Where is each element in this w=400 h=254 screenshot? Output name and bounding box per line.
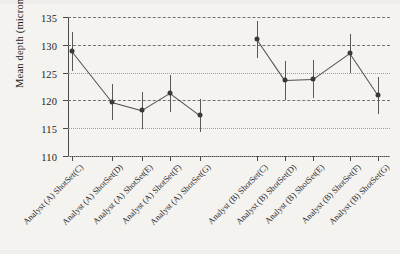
y-tick-label: 135 (41, 13, 57, 24)
line-segment (349, 53, 378, 95)
x-tick-1 (112, 156, 113, 161)
y-tick: 130 (63, 45, 68, 46)
x-tick-0 (72, 156, 73, 161)
data-point (283, 78, 288, 83)
gridline (68, 100, 390, 101)
line-segment (71, 51, 112, 102)
y-tick: 120 (63, 100, 68, 101)
y-tick-label: 110 (41, 152, 57, 163)
y-tick-label: 120 (41, 96, 57, 107)
line-segment (142, 93, 171, 111)
figure-canvas: Mean depth (micron) 110115120125130135 A… (0, 0, 400, 254)
data-point (348, 51, 353, 56)
y-tick-label: 130 (41, 40, 57, 51)
scan-artifact (0, 0, 400, 4)
data-point (70, 49, 75, 54)
y-axis-line (68, 17, 69, 156)
x-tick-8 (350, 156, 351, 161)
data-point (198, 113, 203, 118)
plot-area: 110115120125130135 (68, 17, 390, 156)
data-point (311, 77, 316, 82)
data-point (376, 92, 381, 97)
y-tick-label: 125 (41, 68, 57, 79)
x-tick-7 (313, 156, 314, 161)
x-axis-label: Analyst (A) ShotSet(G) (148, 162, 213, 227)
data-point (110, 100, 115, 105)
line-segment (112, 102, 142, 111)
gridline (68, 128, 390, 129)
y-tick-label: 115 (41, 124, 57, 135)
x-tick-9 (378, 156, 379, 161)
line-segment (285, 79, 313, 81)
x-tick-3 (170, 156, 171, 161)
x-tick-5 (257, 156, 258, 161)
y-tick: 110 (63, 156, 68, 157)
y-axis-title: Mean depth (micron) (14, 0, 25, 88)
y-tick: 135 (63, 17, 68, 18)
x-tick-6 (285, 156, 286, 161)
scan-artifact (0, 250, 400, 254)
gridline (68, 45, 390, 46)
data-point (140, 108, 145, 113)
data-point (168, 91, 173, 96)
x-tick-4 (200, 156, 201, 161)
line-segment (313, 53, 351, 80)
gridline (68, 73, 390, 74)
y-tick: 125 (63, 73, 68, 74)
x-tick-2 (142, 156, 143, 161)
y-tick: 115 (63, 128, 68, 129)
line-segment (169, 93, 200, 116)
gridline (68, 17, 390, 18)
data-point (255, 37, 260, 42)
gridline (68, 156, 390, 157)
